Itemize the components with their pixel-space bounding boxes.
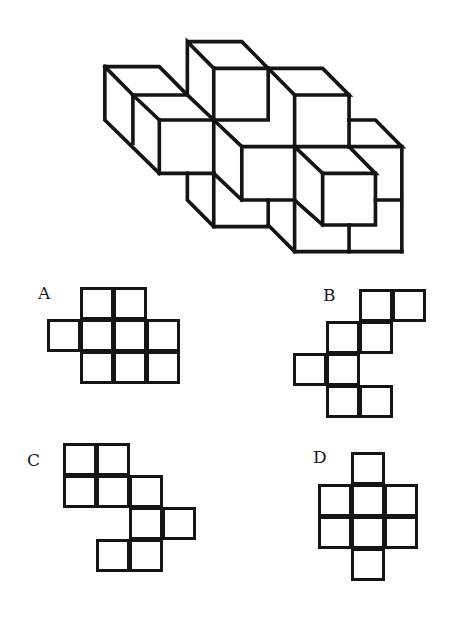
cube-edge	[187, 42, 268, 94]
option-d-label: D	[313, 449, 327, 466]
net-square	[293, 353, 327, 386]
net-square	[326, 321, 360, 354]
cube-edge	[214, 68, 268, 120]
net-square	[359, 385, 393, 418]
net-square	[63, 475, 97, 508]
net-square	[80, 351, 114, 384]
net-square	[113, 351, 147, 384]
net-square	[326, 385, 360, 418]
cube-edge	[349, 120, 402, 147]
net-square	[47, 319, 81, 352]
net-square	[162, 507, 196, 540]
net-square	[392, 289, 426, 322]
cube-edge	[268, 68, 349, 95]
net-square	[351, 484, 385, 517]
net-square	[80, 287, 114, 320]
cube-stack-figure	[90, 30, 420, 260]
net-square	[351, 548, 385, 581]
net-square	[129, 475, 163, 508]
net-square	[146, 319, 180, 352]
net-square	[318, 516, 352, 549]
cube-edge	[375, 147, 401, 252]
net-square	[80, 319, 114, 352]
net-square	[384, 484, 418, 517]
net-square	[96, 539, 130, 572]
net-square	[318, 484, 352, 517]
option-c-label: C	[27, 452, 40, 469]
net-square	[146, 351, 180, 384]
net-square	[359, 321, 393, 354]
net-square	[96, 443, 130, 476]
net-square	[96, 475, 130, 508]
cube-edge	[295, 200, 323, 225]
cube-edge	[242, 147, 295, 200]
net-square	[113, 319, 147, 352]
option-b-label: B	[323, 287, 336, 304]
net-square	[326, 353, 360, 386]
cube-edge	[295, 95, 349, 147]
cube-edge	[323, 173, 376, 225]
net-square	[129, 539, 163, 572]
net-square	[63, 443, 97, 476]
option-a-label: A	[38, 285, 50, 302]
net-square	[351, 452, 385, 485]
net-square	[351, 516, 385, 549]
cube-stack-drawing	[90, 30, 420, 260]
cube-edge	[214, 120, 295, 147]
cube-edge	[159, 120, 213, 173]
cube-edge	[295, 147, 376, 174]
net-square	[359, 289, 393, 322]
net-square	[129, 507, 163, 540]
cube-edge	[268, 225, 402, 252]
net-square	[384, 516, 418, 549]
net-square	[113, 287, 147, 320]
